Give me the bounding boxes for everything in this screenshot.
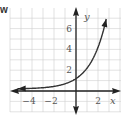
y-axis-label: y bbox=[83, 11, 90, 22]
corner-label: w bbox=[0, 4, 8, 15]
y-tick-label: 2 bbox=[66, 65, 72, 75]
x-axis-label: x bbox=[110, 95, 116, 106]
y-axis-down-arrow-icon bbox=[73, 106, 79, 115]
x-axis-left-arrow-icon bbox=[10, 88, 19, 94]
x-tick-label: −2 bbox=[44, 96, 57, 106]
exponential-graph: −4−22246 x y bbox=[0, 0, 123, 118]
x-tick-label: 2 bbox=[95, 96, 101, 106]
y-axis-up-arrow-icon bbox=[73, 7, 79, 16]
y-tick-label: 6 bbox=[66, 24, 72, 34]
x-tick-label: −4 bbox=[22, 96, 36, 106]
x-axis-right-arrow-icon bbox=[112, 88, 121, 94]
y-tick-label: 4 bbox=[66, 44, 72, 54]
exponential-curve bbox=[18, 19, 107, 89]
chart-figure: w −4−22246 x y bbox=[0, 0, 123, 118]
